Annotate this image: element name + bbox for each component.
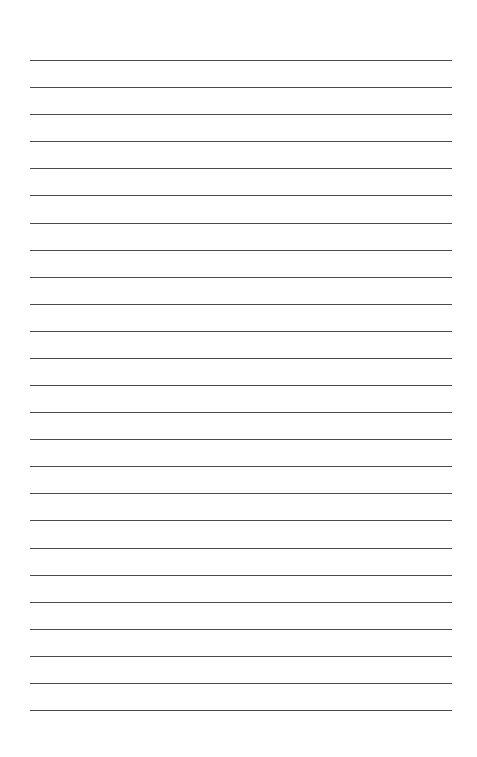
rule-line	[30, 602, 452, 603]
rule-line	[30, 656, 452, 657]
rule-line	[30, 168, 452, 169]
rule-line	[30, 466, 452, 467]
rule-line	[30, 358, 452, 359]
rule-line	[30, 141, 452, 142]
rule-line	[30, 195, 452, 196]
rule-line	[30, 114, 452, 115]
rule-line	[30, 331, 452, 332]
rule-line	[30, 629, 452, 630]
rule-line	[30, 250, 452, 251]
rule-line	[30, 520, 452, 521]
rule-line	[30, 223, 452, 224]
rule-line	[30, 385, 452, 386]
rule-line	[30, 277, 452, 278]
rule-line	[30, 683, 452, 684]
ruled-paper-page	[0, 0, 477, 757]
rule-line	[30, 412, 452, 413]
rule-line	[30, 60, 452, 61]
rule-line	[30, 439, 452, 440]
rule-line	[30, 710, 452, 711]
rule-line	[30, 548, 452, 549]
rule-line	[30, 493, 452, 494]
rule-line	[30, 87, 452, 88]
rule-line-group	[0, 0, 477, 757]
rule-line	[30, 304, 452, 305]
rule-line	[30, 575, 452, 576]
